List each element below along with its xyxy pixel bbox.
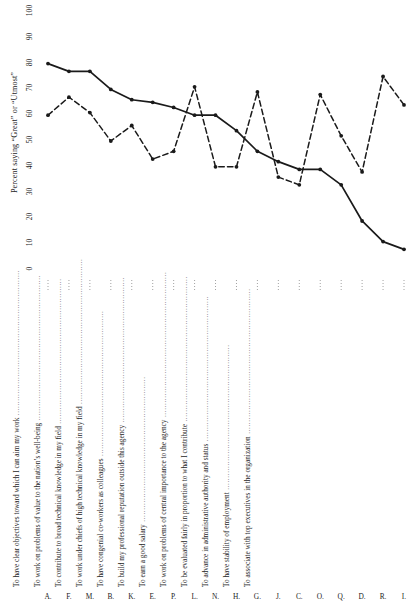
item-text-content: To associate with top executives in the …	[243, 436, 252, 587]
item-text-content: To advance in administrative authority a…	[201, 444, 210, 587]
series-line-1	[48, 77, 404, 185]
item-text-content: To work under chiefs of high technical k…	[75, 406, 84, 587]
item-letter: E.	[144, 592, 161, 601]
data-point	[193, 85, 197, 89]
data-point	[297, 167, 301, 171]
item-text: To have clear objectives toward which I …	[8, 287, 25, 587]
list-item: D.To advance in administrative authority…	[354, 292, 371, 603]
data-point	[276, 160, 280, 164]
data-point	[339, 183, 343, 187]
data-point	[235, 129, 239, 133]
data-point	[402, 103, 406, 107]
item-text: To advance in professional respect of co…	[0, 287, 4, 587]
leader-dots: ........................................…	[96, 311, 105, 459]
item-text-content: To work on problems of value to the nati…	[33, 423, 42, 587]
line-chart-svg	[0, 0, 420, 292]
leader-dots: ........................................…	[201, 296, 210, 444]
list-item: R.To have stability of employment ......…	[375, 292, 392, 603]
data-point	[46, 62, 50, 66]
data-point	[360, 219, 364, 223]
item-label-list: A.To make full use of my present knowled…	[0, 292, 420, 603]
leader-dots: ........................................…	[159, 272, 168, 420]
item-text-content: To have stability of employment	[222, 492, 231, 587]
data-point	[276, 175, 280, 179]
item-letter: B.	[102, 592, 119, 601]
data-point	[172, 149, 176, 153]
item-text-content: To work on problems of central importanc…	[159, 420, 168, 587]
data-point	[151, 157, 155, 161]
data-point	[256, 90, 260, 94]
item-letter: G.	[249, 592, 266, 601]
item-letter: H.	[228, 592, 245, 601]
data-point	[172, 106, 176, 110]
series-line-0	[48, 64, 404, 250]
data-point	[109, 139, 113, 143]
item-text: To earn a good salary ..................…	[134, 287, 151, 587]
item-text: To be evaluated fairly in proportion to …	[176, 287, 193, 587]
data-point	[381, 240, 385, 244]
item-letter: A.	[40, 592, 57, 601]
data-point	[67, 95, 71, 99]
data-point	[151, 100, 155, 104]
leader-dots: ........................................…	[75, 258, 84, 406]
item-text: To have stability of employment ........…	[218, 287, 235, 587]
item-text-content: To have congenial co-workers as colleagu…	[96, 458, 105, 587]
item-letter: C.	[291, 592, 308, 601]
item-text-content: To build my professional reputation outs…	[117, 425, 126, 587]
item-letter: P.	[165, 592, 182, 601]
data-point	[318, 167, 322, 171]
data-point	[193, 113, 197, 117]
item-text: To associate with top executives in the …	[239, 287, 256, 587]
data-point	[402, 247, 406, 251]
plot-region: Percent saying “Great” or “Utmost” 01020…	[0, 0, 420, 292]
data-point	[67, 69, 71, 73]
data-point	[214, 165, 218, 169]
leader-dots: ........................................…	[222, 344, 231, 492]
item-letter: J.	[270, 592, 287, 601]
leader-dots: ........................................…	[138, 376, 147, 524]
leader-dots: ........................................…	[33, 275, 42, 423]
data-point	[109, 88, 113, 92]
leader-dots: ........................................…	[54, 278, 63, 426]
list-item: O.To work on problems of central importa…	[312, 292, 329, 603]
item-letter: O.	[312, 592, 329, 601]
data-point	[297, 183, 301, 187]
list-item: Q.To be evaluated fairly in proportion t…	[333, 292, 350, 603]
leader-dots: ........................................…	[12, 270, 21, 418]
item-text-content: To earn a good salary	[138, 524, 147, 587]
item-text-content: To have clear objectives toward which I …	[12, 418, 21, 587]
data-point	[235, 165, 239, 169]
item-letter: M.	[81, 592, 98, 601]
item-letter: Q.	[333, 592, 350, 601]
list-item: C.To earn a good salary ................…	[291, 292, 308, 603]
data-point	[88, 111, 92, 115]
item-text-content: To be evaluated fairly in proportion to …	[180, 424, 189, 587]
leader-dots: ........................................…	[243, 288, 252, 436]
item-letter: F.	[60, 592, 77, 601]
data-point	[318, 93, 322, 97]
item-text: To build my professional reputation outs…	[113, 287, 130, 587]
item-letter: K.	[123, 592, 140, 601]
data-point	[130, 124, 134, 128]
item-letter: L.	[186, 592, 203, 601]
item-text: To work on problems of central importanc…	[155, 287, 172, 587]
list-item: J.To build my professional reputation ou…	[270, 292, 287, 603]
data-point	[360, 170, 364, 174]
leader-dots: ........................................…	[180, 276, 189, 424]
item-letter: R.	[375, 592, 392, 601]
data-point	[381, 75, 385, 79]
item-text: To have congenial co-workers as colleagu…	[92, 287, 109, 587]
data-point	[88, 69, 92, 73]
item-letter: N.	[207, 592, 224, 601]
series-importance	[46, 62, 406, 252]
data-point	[46, 113, 50, 117]
data-point	[339, 134, 343, 138]
item-text: To work on problems of value to the nati…	[29, 287, 46, 587]
chart-page: Percent saying “Great” or “Utmost” 01020…	[0, 0, 420, 603]
item-text: To advance in administrative authority a…	[197, 287, 214, 587]
leader-dots: ........................................…	[117, 277, 126, 425]
data-point	[130, 98, 134, 102]
list-item: I.To associate with top executives in th…	[396, 292, 413, 603]
item-text-content: To contribute to broad technical knowled…	[54, 426, 63, 587]
item-text: To contribute to broad technical knowled…	[50, 287, 67, 587]
